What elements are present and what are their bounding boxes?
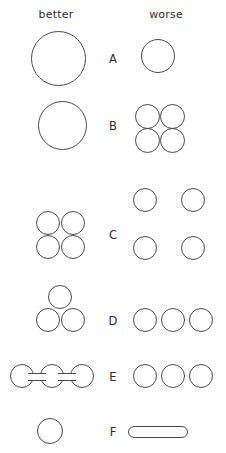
circle-c-worse-1 [133,188,157,212]
row-label-a: A [103,52,123,66]
circle-b-worse-2 [160,104,185,129]
circle-d-worse-3 [189,308,213,332]
circle-b-worse-3 [135,128,160,153]
circle-d-worse-1 [133,308,157,332]
neck-e-2 [58,373,76,381]
row-label-f: F [103,425,123,439]
circle-c-better-1 [36,211,60,235]
circle-a-better-1 [31,31,86,86]
row-label-c: C [103,228,123,242]
circle-c-worse-4 [181,236,205,260]
circle-b-worse-4 [160,128,185,153]
circle-d-better-1 [48,285,72,309]
circle-b-better-1 [38,101,87,150]
row-label-e: E [103,370,123,384]
circle-b-worse-1 [135,104,160,129]
circle-f-better-1 [37,418,63,444]
column-header-better: better [14,8,98,21]
circle-a-worse-1 [141,39,175,73]
row-label-d: D [103,314,123,328]
circle-c-better-2 [61,211,85,235]
row-label-b: B [103,119,123,133]
column-header-worse: worse [124,8,208,21]
circle-c-better-4 [61,235,85,259]
circle-d-better-3 [61,308,85,332]
neck-e-1 [28,373,46,381]
circle-d-better-2 [36,308,60,332]
capsule-f-worse-1 [128,426,188,438]
circle-e-worse-3 [189,364,213,388]
circle-c-better-3 [36,235,60,259]
circle-c-worse-2 [181,188,205,212]
circle-e-worse-1 [133,364,157,388]
figure-canvas: better worse A B C D E F [0,0,226,453]
circle-e-worse-2 [161,364,185,388]
circle-c-worse-3 [133,236,157,260]
circle-d-worse-2 [161,308,185,332]
